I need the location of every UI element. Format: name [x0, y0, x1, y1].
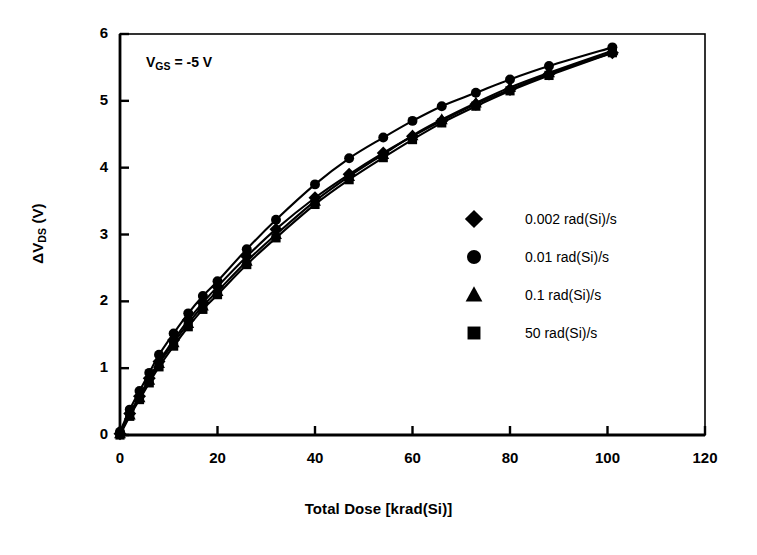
data-point-marker	[135, 395, 144, 404]
data-point-marker	[198, 291, 208, 301]
data-point-marker	[213, 290, 222, 299]
legend-marker-diamond-icon	[462, 208, 492, 230]
data-point-marker	[471, 102, 480, 111]
y-tick-label: 5	[68, 91, 108, 108]
y-axis-title: ΔVDS (V)	[29, 164, 46, 304]
data-point-marker	[115, 430, 124, 439]
data-point-marker	[608, 48, 617, 57]
bias-condition-annotation: VGS = -5 V	[146, 54, 212, 70]
x-axis-title: Total Dose [krad(Si)]	[0, 500, 757, 517]
x-tick-label: 60	[383, 449, 443, 466]
y-axis-title-unit: (V)	[29, 203, 46, 228]
data-point-marker	[379, 153, 388, 162]
legend-label: 50 rad(Si)/s	[525, 325, 597, 341]
y-tick-label: 3	[68, 225, 108, 242]
y-tick-label: 4	[68, 158, 108, 175]
data-point-marker	[154, 362, 163, 371]
data-point-marker	[378, 133, 388, 143]
data-point-marker	[408, 116, 418, 126]
y-tick-label: 1	[68, 358, 108, 375]
chart-figure: Total Dose [krad(Si)] ΔVDS (V) VGS = -5 …	[0, 0, 757, 555]
data-point-marker	[169, 342, 178, 351]
legend-item-circle: 0.01 rad(Si)/s	[462, 238, 672, 276]
data-point-marker	[471, 88, 481, 98]
annotation-value: = -5 V	[171, 54, 213, 70]
legend-item-square: 50 rad(Si)/s	[462, 314, 672, 352]
data-point-marker	[437, 101, 447, 111]
data-point-marker	[183, 308, 193, 318]
data-point-marker	[184, 322, 193, 331]
x-tick-label: 100	[578, 449, 638, 466]
legend-marker-triangle-icon	[462, 284, 492, 306]
data-point-marker	[544, 71, 553, 80]
x-tick-label: 80	[480, 449, 540, 466]
data-point-marker	[437, 118, 446, 127]
legend-item-triangle: 0.1 rad(Si)/s	[462, 276, 672, 314]
y-axis-title-subscript: DS	[36, 228, 48, 243]
data-point-marker	[310, 179, 320, 189]
y-axis-title-main: ΔV	[29, 243, 46, 264]
legend-label: 0.01 rad(Si)/s	[525, 249, 609, 265]
data-point-marker	[310, 200, 319, 209]
data-point-marker	[242, 244, 252, 254]
data-point-marker	[198, 305, 207, 314]
x-tick-label: 0	[90, 449, 150, 466]
data-point-marker	[145, 378, 154, 387]
y-tick-label: 6	[68, 24, 108, 41]
data-point-marker	[271, 215, 281, 225]
legend-marker-circle-icon	[462, 246, 492, 268]
y-tick-label: 0	[68, 425, 108, 442]
x-tick-label: 120	[675, 449, 735, 466]
x-tick-label: 40	[285, 449, 345, 466]
chart-legend: 0.002 rad(Si)/s0.01 rad(Si)/s0.1 rad(Si)…	[462, 200, 672, 352]
legend-marker-square-icon	[462, 322, 492, 344]
data-point-marker	[271, 233, 280, 242]
data-point-marker	[242, 260, 251, 269]
y-tick-label: 2	[68, 291, 108, 308]
annotation-subscript: GS	[155, 60, 170, 72]
legend-label: 0.002 rad(Si)/s	[525, 211, 617, 227]
data-point-marker	[505, 86, 514, 95]
data-point-marker	[345, 175, 354, 184]
legend-label: 0.1 rad(Si)/s	[525, 287, 601, 303]
annotation-symbol: V	[146, 54, 155, 70]
data-point-marker	[408, 135, 417, 144]
data-point-marker	[125, 412, 134, 421]
data-point-marker	[213, 276, 223, 286]
legend-item-diamond: 0.002 rad(Si)/s	[462, 200, 672, 238]
x-tick-label: 20	[188, 449, 248, 466]
data-point-marker	[344, 153, 354, 163]
